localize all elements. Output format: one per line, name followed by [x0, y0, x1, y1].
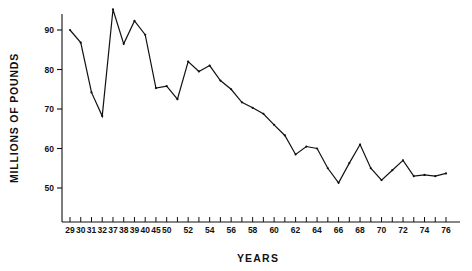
data-point: [90, 91, 92, 93]
x-axis-tick-label: 76: [441, 225, 451, 235]
data-point: [123, 43, 125, 45]
data-point: [209, 64, 211, 66]
x-axis-title: YEARS: [237, 252, 279, 264]
data-point: [166, 85, 168, 87]
x-axis-tick-label: 37: [108, 225, 118, 235]
data-point: [305, 145, 307, 147]
data-point: [198, 70, 200, 72]
data-point: [316, 147, 318, 149]
data-point: [391, 169, 393, 171]
x-axis-tick-label: 66: [334, 225, 344, 235]
data-point: [187, 61, 189, 63]
data-point: [284, 134, 286, 136]
x-axis-tick-label: 50: [162, 225, 172, 235]
x-axis-tick-label: 40: [140, 225, 150, 235]
data-point: [423, 174, 425, 176]
data-point: [155, 87, 157, 89]
data-point: [327, 167, 329, 169]
data-point: [434, 175, 436, 177]
x-axis-tick-label: 39: [130, 225, 140, 235]
x-axis-tick-label: 70: [377, 225, 387, 235]
data-point: [445, 172, 447, 174]
data-point: [380, 179, 382, 181]
data-point: [402, 159, 404, 161]
x-axis-tick-label: 58: [248, 225, 258, 235]
data-point: [348, 162, 350, 164]
data-point: [230, 88, 232, 90]
data-point: [295, 153, 297, 155]
data-point: [262, 113, 264, 115]
x-axis-tick-label: 64: [312, 225, 322, 235]
data-point: [69, 29, 71, 31]
x-axis-tick-label: 52: [183, 225, 193, 235]
data-point: [252, 107, 254, 109]
x-axis-tick-label: 31: [87, 225, 97, 235]
x-axis-tick-label: 56: [226, 225, 236, 235]
data-point: [241, 101, 243, 103]
data-point: [176, 98, 178, 100]
data-point: [80, 42, 82, 44]
x-axis-tick-label: 60: [269, 225, 279, 235]
x-axis-tick-label: 54: [205, 225, 215, 235]
data-point: [337, 182, 339, 184]
y-axis-title: MILLIONS OF POUNDS: [8, 53, 20, 183]
x-axis-tick-label: 74: [420, 225, 430, 235]
x-axis-tick-label: 68: [355, 225, 365, 235]
data-point: [359, 143, 361, 145]
y-axis-tick-label: 80: [45, 65, 55, 75]
line-chart-figure: 5060708090 29303132373839404550525456586…: [0, 0, 472, 271]
x-axis-tick-label: 72: [398, 225, 408, 235]
data-point: [370, 167, 372, 169]
x-axis-tick-label: 38: [119, 225, 129, 235]
y-axis-tick-label: 90: [45, 25, 55, 35]
data-point: [273, 124, 275, 126]
x-axis-tick-label: 30: [76, 225, 86, 235]
x-axis-tick-label: 29: [65, 225, 75, 235]
x-axis-tick-label: 62: [291, 225, 301, 235]
y-axis-tick-label: 70: [45, 104, 55, 114]
x-axis-tick-label: 45: [151, 225, 161, 235]
y-axis-tick-label: 50: [45, 183, 55, 193]
x-axis-tick-label: 32: [97, 225, 107, 235]
data-point: [101, 115, 103, 117]
chart-container: 5060708090 29303132373839404550525456586…: [0, 0, 472, 271]
data-point: [133, 20, 135, 22]
data-point: [144, 34, 146, 36]
data-point: [413, 175, 415, 177]
y-axis-tick-label: 60: [45, 144, 55, 154]
data-point: [219, 79, 221, 81]
data-point: [112, 8, 114, 10]
